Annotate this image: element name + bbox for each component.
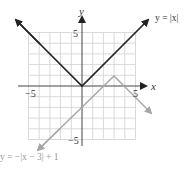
y-axis-label: y xyxy=(78,5,84,17)
series-black-left-arrow xyxy=(16,20,40,44)
graph: y x 5 −5 −5 5 y = |x| y = −|x − 3| + 1 xyxy=(0,0,193,174)
x-axis-label: x xyxy=(150,80,156,92)
tick-x-neg: −5 xyxy=(25,88,36,99)
equation-abs-x: y = |x| xyxy=(155,13,179,23)
equation-shifted: y = −|x − 3| + 1 xyxy=(0,152,59,162)
tick-x-pos: 5 xyxy=(133,88,138,99)
tick-y-pos: 5 xyxy=(73,28,78,39)
tick-y-neg: −5 xyxy=(68,135,79,146)
